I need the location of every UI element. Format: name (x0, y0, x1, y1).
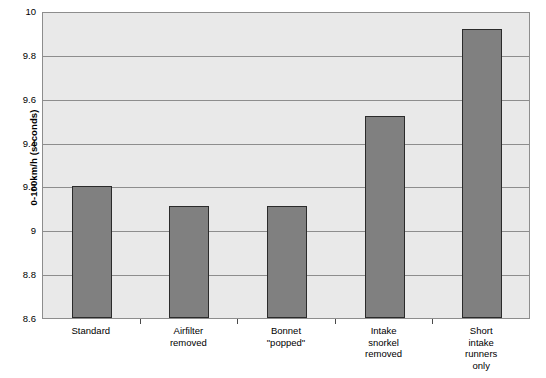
bars-layer (43, 13, 529, 318)
bar (267, 206, 307, 318)
x-category-label: Airfilter removed (140, 325, 238, 348)
x-tick-mark (335, 319, 336, 324)
x-category-label: Bonnet "popped" (237, 325, 335, 348)
y-tick-label: 9.8 (2, 51, 36, 61)
x-tick-mark (432, 319, 433, 324)
plot-area (42, 12, 530, 319)
y-tick-label: 9.6 (2, 95, 36, 105)
x-category-label: Standard (42, 325, 140, 337)
y-tick-label: 9.4 (2, 139, 36, 149)
x-tick-mark (140, 319, 141, 324)
bar (72, 186, 112, 318)
bar (169, 206, 209, 318)
y-tick-label: 9.2 (2, 182, 36, 192)
bar-chart: 0-100km/h (seconds) 109.89.69.49.298.88.… (0, 0, 546, 378)
y-tick-label: 8.6 (2, 314, 36, 324)
x-category-label: Intake snorkel removed (335, 325, 433, 360)
x-tick-mark (237, 319, 238, 324)
y-tick-label: 8.8 (2, 270, 36, 280)
bar (462, 29, 502, 318)
y-tick-label: 10 (2, 7, 36, 17)
bar (365, 116, 405, 318)
x-category-label: Short intake runners only (432, 325, 530, 371)
y-tick-label: 9 (2, 226, 36, 236)
